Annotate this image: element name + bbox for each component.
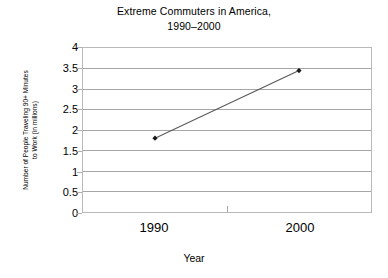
y-axis-label-line2: to Work (in millions) xyxy=(31,70,40,190)
y-tick-mark xyxy=(77,213,82,214)
y-axis-label-line1: Number of People Traveling 90+ Minutes xyxy=(22,70,31,190)
x-tick-label-2000: 2000 xyxy=(286,220,315,235)
y-tick-label: 2 xyxy=(44,125,78,136)
gridlines xyxy=(83,69,371,192)
series-line xyxy=(155,71,299,139)
x-tick-label-1990: 1990 xyxy=(140,220,169,235)
data-point-marker xyxy=(152,136,157,141)
y-tick-label: 3.5 xyxy=(44,62,78,73)
y-tick-label: 1 xyxy=(44,166,78,177)
y-tick-label: 2.5 xyxy=(44,104,78,115)
plot-svg xyxy=(83,48,371,212)
y-tick-label: 1.5 xyxy=(44,145,78,156)
y-tick-label: 3 xyxy=(44,83,78,94)
x-axis-label: Year xyxy=(0,252,388,264)
y-tick-label: 0.5 xyxy=(44,187,78,198)
plot-area xyxy=(82,47,372,213)
y-axis-tick-labels: 4 3.5 3 2.5 2 1.5 1 0.5 0 xyxy=(42,0,78,278)
y-tick-label: 4 xyxy=(44,42,78,53)
chart-container: Extreme Commuters in America, 1990–2000 … xyxy=(0,0,388,278)
y-tick-label: 0 xyxy=(44,208,78,219)
chart-title-line1: Extreme Commuters in America, xyxy=(117,5,271,17)
y-axis-label: Number of People Traveling 90+ Minutes t… xyxy=(18,47,44,213)
